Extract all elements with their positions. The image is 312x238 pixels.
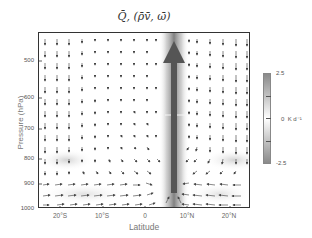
heatmap-vector-field: [39, 33, 250, 208]
colorbar-max-label: 2.5: [276, 70, 284, 76]
colorbar-tick: [266, 141, 271, 142]
chart-title: Q̄, (ρ̄v̄, ω̄): [0, 10, 288, 23]
y-tick-900: 900: [24, 180, 34, 186]
colorbar-mid-label: 0 K d⁻¹: [281, 115, 302, 122]
colorbar-tick: [266, 96, 271, 97]
y-tick-1000: 1000: [21, 205, 34, 211]
plot-area: [38, 32, 250, 208]
x-axis-label: Latitude: [0, 222, 288, 232]
y-tick-800: 800: [24, 155, 34, 161]
x-tick-10n: 10°N: [180, 212, 195, 219]
colorbar-tick: [266, 118, 271, 119]
x-tick-20n: 20°N: [222, 212, 237, 219]
y-tick-500: 500: [24, 57, 34, 63]
colorbar-min-label: -2.5: [276, 160, 286, 166]
x-tick-10s: 10°S: [95, 212, 109, 219]
x-tick-0: 0: [143, 212, 147, 219]
x-tick-20s: 20°S: [53, 212, 67, 219]
y-tick-600: 600: [24, 94, 34, 100]
y-tick-700: 700: [24, 125, 34, 131]
y-axis-label: Pressure (hPa): [16, 83, 25, 163]
